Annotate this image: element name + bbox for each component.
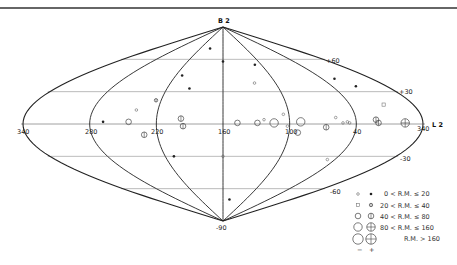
- data-point: [154, 99, 157, 102]
- open-dot: [253, 82, 256, 85]
- lat-tick-m30: -30: [400, 155, 411, 163]
- filled-dot: [355, 85, 358, 88]
- lon-tick-0: 340: [17, 128, 29, 136]
- data-point: [178, 116, 184, 122]
- lon-tick-5: 40: [353, 128, 361, 136]
- legend-symbol-positive: [370, 193, 373, 196]
- data-point: [254, 63, 257, 66]
- lat-tick-p60: +60: [326, 57, 340, 65]
- data-point: [173, 155, 176, 158]
- legend-symbol-positive: [366, 234, 376, 244]
- legend-symbol-negative: [354, 223, 362, 231]
- data-point: [188, 87, 191, 90]
- legend-row-1: 0 < R.M. ≤ 20: [384, 190, 430, 198]
- legend-negative-label: −: [357, 246, 362, 254]
- lat-tick-p30: +30: [399, 88, 413, 96]
- data-point: [253, 82, 256, 85]
- legend-symbol-negative: [357, 193, 360, 196]
- data-point: [141, 132, 147, 138]
- filled-dot: [254, 63, 257, 66]
- equator-label: L 2: [432, 121, 443, 129]
- circle-marker: [353, 234, 363, 244]
- circle-marker: [255, 120, 261, 126]
- open-square: [356, 203, 359, 206]
- legend-symbol-negative: [356, 203, 359, 206]
- filled-dot: [173, 155, 176, 158]
- legend-row-5: R.M. > 160: [404, 235, 440, 243]
- circle-marker: [270, 119, 278, 127]
- data-point: [181, 74, 184, 77]
- filled-dot: [188, 87, 191, 90]
- legend-symbol-positive: [367, 223, 375, 231]
- data-point: [222, 60, 225, 63]
- filled-dot: [222, 60, 225, 63]
- open-dot: [334, 116, 337, 119]
- data-point: [180, 123, 186, 129]
- data-point: [355, 85, 358, 88]
- filled-dot: [181, 74, 184, 77]
- lon-tick-1: 280: [85, 128, 97, 136]
- data-point: [334, 116, 337, 119]
- data-point: [382, 103, 385, 106]
- data-point: [135, 109, 138, 112]
- legend-symbol-positive: [369, 203, 372, 206]
- circle-marker: [297, 118, 305, 126]
- north-pole-label: B 2: [218, 17, 230, 25]
- data-point: [376, 120, 382, 126]
- data-point: [228, 198, 231, 201]
- open-dot: [326, 158, 329, 161]
- lon-tick-3: 160: [218, 128, 230, 136]
- filled-dot: [102, 121, 105, 124]
- lon-tick-2: 220: [151, 128, 163, 136]
- circle-marker: [235, 120, 241, 126]
- open-dot: [135, 109, 138, 112]
- data-point: [255, 120, 261, 126]
- filled-dot: [209, 47, 212, 50]
- lat-tick-m60: -60: [330, 188, 341, 196]
- data-point: [297, 118, 305, 126]
- sky-map-figure: B 2 -90 L 2 340 280 220 160 100 40 340 +…: [0, 0, 457, 265]
- filled-dot: [370, 193, 373, 196]
- open-square: [382, 103, 385, 106]
- legend-row-4: 80 < R.M. ≤ 160: [380, 224, 434, 232]
- filled-dot: [228, 198, 231, 201]
- legend: 0 < R.M. ≤ 20 20 < R.M. ≤ 40 40 < R.M. ≤…: [353, 190, 440, 254]
- lon-tick-6: 340: [417, 125, 429, 133]
- data-point: [326, 158, 329, 161]
- circle-marker: [354, 223, 362, 231]
- data-point: [263, 118, 266, 121]
- legend-symbols: [353, 193, 376, 245]
- data-point: [282, 113, 285, 116]
- data-point: [209, 47, 212, 50]
- south-pole-label: -90: [216, 224, 227, 232]
- legend-positive-label: +: [369, 246, 374, 254]
- legend-row-2: 20 < R.M. ≤ 40: [380, 202, 430, 210]
- open-dot: [282, 113, 285, 116]
- data-point: [102, 121, 105, 124]
- data-point: [333, 77, 336, 80]
- legend-row-3: 40 < R.M. ≤ 80: [380, 213, 430, 221]
- data-point: [235, 120, 241, 126]
- legend-symbol-negative: [353, 234, 363, 244]
- open-dot: [263, 118, 266, 121]
- circle-marker: [355, 213, 361, 219]
- filled-dot: [333, 77, 336, 80]
- legend-symbol-positive: [368, 213, 374, 219]
- data-point: [270, 119, 278, 127]
- data-point: [401, 119, 409, 127]
- data-point: [323, 124, 329, 130]
- open-dot: [357, 193, 360, 196]
- legend-symbol-negative: [355, 213, 361, 219]
